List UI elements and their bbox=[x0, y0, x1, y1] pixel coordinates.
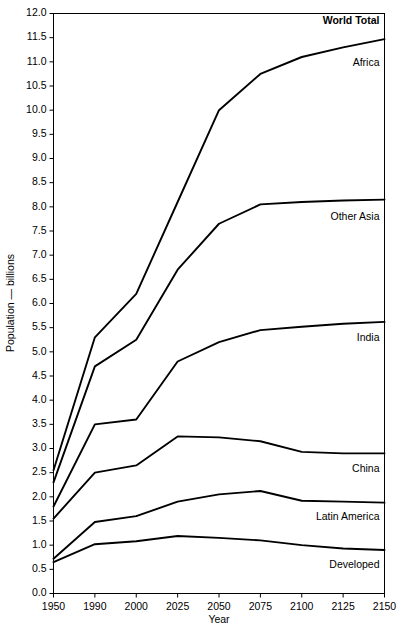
series-label-india: India bbox=[357, 331, 380, 343]
y-tick-label: 8.5 bbox=[32, 175, 47, 187]
y-tick-label: 3.5 bbox=[32, 417, 47, 429]
x-tick-label: 2025 bbox=[166, 600, 190, 612]
y-tick-label: 11.5 bbox=[27, 30, 47, 42]
y-tick-label: 3.0 bbox=[32, 441, 47, 453]
y-axis-title: Population — billions bbox=[4, 254, 16, 352]
y-tick-label: 7.0 bbox=[32, 248, 47, 260]
x-tick-label: 2100 bbox=[290, 600, 314, 612]
y-tick-label: 0.5 bbox=[32, 562, 47, 574]
y-tick-label: 4.5 bbox=[32, 369, 47, 381]
y-tick-label: 10.0 bbox=[26, 103, 47, 115]
series-label-other-asia: Other Asia bbox=[330, 210, 379, 222]
y-tick-label: 12.0 bbox=[26, 6, 47, 18]
series-label-china: China bbox=[352, 462, 380, 474]
series-label-world-total: World Total bbox=[323, 14, 380, 26]
y-tick-label: 5.0 bbox=[32, 345, 47, 357]
x-axis-title: Year bbox=[208, 613, 230, 625]
y-tick-label: 9.0 bbox=[32, 151, 47, 163]
y-tick-label: 6.5 bbox=[32, 272, 47, 284]
y-tick-label: 4.0 bbox=[32, 393, 47, 405]
y-tick-label: 9.5 bbox=[32, 127, 47, 139]
y-tick-label: 8.0 bbox=[32, 200, 47, 212]
y-tick-label: 2.5 bbox=[32, 465, 47, 477]
y-tick-label: 11.0 bbox=[27, 55, 47, 67]
y-tick-label: 2.0 bbox=[32, 490, 47, 502]
x-tick-label: 2000 bbox=[125, 600, 149, 612]
x-tick-label: 1990 bbox=[83, 600, 107, 612]
y-tick-label: 1.0 bbox=[32, 538, 47, 550]
y-tick-label: 10.5 bbox=[26, 79, 47, 91]
series-label-latin-america: Latin America bbox=[316, 510, 380, 522]
x-tick-label: 1950 bbox=[42, 600, 66, 612]
x-tick-label: 2125 bbox=[331, 600, 355, 612]
population-projection-chart: 0.00.51.01.52.02.53.03.54.04.55.05.56.06… bbox=[0, 0, 401, 632]
y-tick-label: 1.5 bbox=[32, 514, 47, 526]
y-tick-label: 5.5 bbox=[32, 320, 47, 332]
x-tick-label: 2075 bbox=[249, 600, 273, 612]
x-tick-label: 2050 bbox=[207, 600, 231, 612]
y-tick-label: 7.5 bbox=[32, 224, 47, 236]
x-tick-label: 2150 bbox=[373, 600, 397, 612]
series-label-developed: Developed bbox=[329, 558, 379, 570]
plot-area-frame bbox=[54, 14, 385, 594]
y-tick-label: 0.0 bbox=[32, 586, 47, 598]
series-label-africa: Africa bbox=[353, 56, 380, 68]
chart-container: 0.00.51.01.52.02.53.03.54.04.55.05.56.06… bbox=[0, 0, 401, 632]
y-tick-label: 6.0 bbox=[32, 296, 47, 308]
x-axis-ticks: 195019902000202520502075210021252150 bbox=[42, 594, 397, 612]
